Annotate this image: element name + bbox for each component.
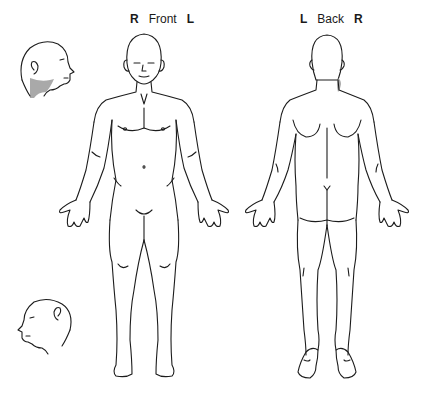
body-back[interactable] [246,35,409,378]
head-right-profile[interactable] [21,42,74,98]
shaded-jaw-region [30,78,54,98]
body-diagram [0,0,430,399]
body-front[interactable] [60,34,229,377]
head-left-profile[interactable] [18,299,71,354]
